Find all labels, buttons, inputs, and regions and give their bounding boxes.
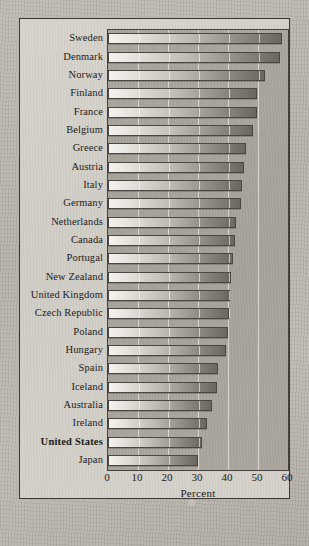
bar-tick	[259, 53, 260, 62]
category-label-sweden: Sweden	[69, 32, 103, 43]
bar-tick	[139, 254, 140, 263]
bar-tick	[199, 273, 200, 282]
bar-tick	[139, 199, 140, 208]
x-tick-0: 0	[104, 471, 110, 483]
bar-row	[108, 382, 288, 393]
bar-row	[108, 437, 288, 448]
bar-greece	[108, 143, 246, 154]
bar-row	[108, 290, 288, 301]
category-label-norway: Norway	[69, 69, 103, 80]
category-label-denmark: Denmark	[63, 51, 103, 62]
bar-australia	[108, 400, 212, 411]
bar-tick	[229, 89, 230, 98]
x-tick-10: 10	[132, 471, 143, 483]
bar-tick	[169, 419, 170, 428]
bar-tick	[229, 309, 230, 318]
bar-row	[108, 400, 288, 411]
category-label-germany: Germany	[63, 197, 103, 208]
bar-tick	[229, 199, 230, 208]
bar-tick	[139, 456, 140, 465]
category-label-poland: Poland	[73, 326, 103, 337]
bar-austria	[108, 162, 244, 173]
bar-france	[108, 107, 257, 118]
chart-figure: SwedenDenmarkNorwayFinlandFranceBelgiumG…	[19, 18, 290, 499]
bar-row	[108, 180, 288, 191]
bar-united-kingdom	[108, 290, 230, 301]
bar-tick	[229, 218, 230, 227]
category-label-france: France	[74, 106, 103, 117]
bar-tick	[199, 163, 200, 172]
bar-row	[108, 418, 288, 429]
category-label-finland: Finland	[70, 87, 103, 98]
x-axis-tick-labels: 0102030405060	[107, 471, 289, 487]
bar-tick	[169, 108, 170, 117]
bar-tick	[199, 71, 200, 80]
bar-row	[108, 272, 288, 283]
bar-tick	[199, 126, 200, 135]
x-tick-60: 60	[282, 471, 293, 483]
bar-tick	[199, 218, 200, 227]
category-label-japan: Japan	[79, 454, 103, 465]
category-label-austria: Austria	[71, 161, 103, 172]
plot-area	[107, 29, 289, 471]
bar-japan	[108, 455, 198, 466]
bar-tick	[169, 53, 170, 62]
bar-tick	[199, 89, 200, 98]
bar-new-zealand	[108, 272, 231, 283]
bar-united-states	[108, 437, 202, 448]
bar-tick	[169, 383, 170, 392]
bar-tick	[139, 419, 140, 428]
category-label-hungary: Hungary	[66, 344, 103, 355]
bar-tick	[229, 291, 230, 300]
bar-tick	[169, 328, 170, 337]
bar-tick	[199, 419, 200, 428]
bar-tick	[139, 309, 140, 318]
bar-belgium	[108, 125, 253, 136]
category-label-iceland: Iceland	[71, 381, 103, 392]
bar-tick	[169, 126, 170, 135]
bar-row	[108, 107, 288, 118]
category-label-belgium: Belgium	[66, 124, 103, 135]
bar-tick	[199, 346, 200, 355]
bar-tick	[259, 34, 260, 43]
bar-czech-republic	[108, 308, 229, 319]
bar-tick	[169, 291, 170, 300]
bar-tick	[229, 163, 230, 172]
bar-tick	[139, 438, 140, 447]
bar-row	[108, 235, 288, 246]
bar-tick	[169, 309, 170, 318]
bar-tick	[169, 218, 170, 227]
category-label-ireland: Ireland	[73, 417, 103, 428]
bar-row	[108, 455, 288, 466]
bar-tick	[199, 364, 200, 373]
bar-tick	[139, 364, 140, 373]
bar-row	[108, 363, 288, 374]
bar-tick	[139, 163, 140, 172]
category-label-netherlands: Netherlands	[51, 216, 103, 227]
bar-tick	[169, 254, 170, 263]
bar-row	[108, 52, 288, 63]
bar-tick	[169, 144, 170, 153]
bar-tick	[199, 236, 200, 245]
bar-row	[108, 70, 288, 81]
bar-germany	[108, 198, 241, 209]
bar-row	[108, 33, 288, 44]
category-label-spain: Spain	[79, 362, 103, 373]
bar-tick	[169, 438, 170, 447]
bar-tick	[169, 34, 170, 43]
bar-tick	[139, 218, 140, 227]
bar-italy	[108, 180, 242, 191]
x-axis-title: Percent	[107, 487, 289, 499]
bar-tick	[139, 236, 140, 245]
bar-row	[108, 143, 288, 154]
bar-tick	[199, 108, 200, 117]
bar-row	[108, 162, 288, 173]
bar-denmark	[108, 52, 280, 63]
category-label-greece: Greece	[73, 142, 103, 153]
bar-row	[108, 308, 288, 319]
category-label-united-kingdom: United Kingdom	[31, 289, 103, 300]
category-label-portugal: Portugal	[67, 252, 103, 263]
bar-tick	[139, 346, 140, 355]
bar-tick	[199, 199, 200, 208]
bar-tick	[199, 309, 200, 318]
